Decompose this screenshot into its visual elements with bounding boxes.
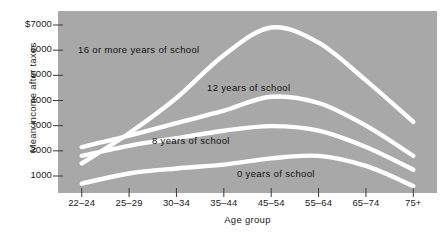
x-axis-title: Age group [58,214,437,225]
x-tick-label: 22–24 [56,197,108,208]
series-annotation: 8 years of school [152,135,230,146]
series-annotation: 16 or more years of school [78,44,200,55]
x-tick-label: 45–54 [245,197,297,208]
x-tick-label: 25–29 [103,197,155,208]
x-tick-label: 35–44 [198,197,250,208]
series-annotation: 0 years of school [237,168,315,179]
x-tick-label: 30–34 [150,197,202,208]
x-tick-label: 65–74 [340,197,392,208]
x-tick-label: 55–64 [293,197,345,208]
x-tick-label: 75+ [387,197,439,208]
y-axis-title: Mean income after taxes [27,18,38,178]
chart-figure: $7000600050004000300020001000 22–2425–29… [0,0,445,232]
series-annotation: 12 years of school [207,82,290,93]
